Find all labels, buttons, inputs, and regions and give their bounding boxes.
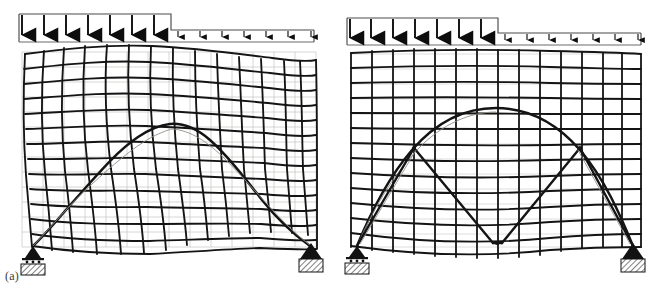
panel-a-caption: (a) <box>5 269 19 284</box>
deformed-mesh-rows-a <box>24 45 317 254</box>
deformed-mesh-rows-b <box>351 50 641 254</box>
load-diagram-b <box>347 18 641 45</box>
load-arrows-light-a <box>178 31 311 37</box>
panel-b: (b) <box>330 0 659 293</box>
load-arrows-heavy-b <box>350 19 481 38</box>
load-block-heavy-a <box>19 14 314 42</box>
load-block-heavy-b <box>347 18 641 45</box>
support-left-b <box>345 246 369 274</box>
load-arrows-light-b <box>505 34 638 40</box>
panel-a-drawing <box>0 0 329 293</box>
panel-a: (a) <box>0 0 329 293</box>
figure-container: (a) <box>0 0 659 293</box>
load-arrows-heavy-a <box>22 15 154 35</box>
panel-b-drawing <box>330 0 659 293</box>
support-right-a <box>299 243 323 272</box>
deformed-mesh-columns-b <box>351 49 641 258</box>
load-diagram-a <box>19 14 314 42</box>
support-left-a <box>21 246 45 275</box>
